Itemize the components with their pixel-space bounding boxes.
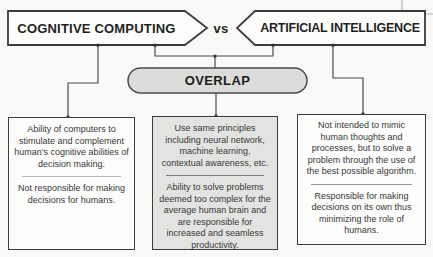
cognitive-computing-top-text: Ability of computers to stimulate and co… [14, 124, 129, 170]
connector-left [68, 45, 98, 117]
cognitive-computing-bottom-text: Not responsible for making decisions for… [14, 183, 129, 206]
overlap-bottom-text: Ability to solve problems deemed too com… [158, 182, 272, 251]
banner-right-title: ARTIFICIAL INTELLIGENCE [255, 11, 425, 45]
overlap-top-text: Use same principles including neural net… [158, 123, 272, 169]
divider-line [311, 184, 412, 185]
overlap-box: Use same principles including neural net… [152, 116, 278, 250]
banner-left-title: COGNITIVE COMPUTING [8, 11, 185, 45]
diagram-canvas: COGNITIVE COMPUTING vs ARTIFICIAL INTELL… [0, 0, 433, 257]
artificial-intelligence-bottom-text: Responsible for making decisions on its … [303, 191, 420, 237]
overlap-pill-label: OVERLAP [128, 68, 307, 93]
connector-right [333, 45, 363, 114]
artificial-intelligence-top-text: Not intended to mimic human thoughts and… [303, 120, 420, 178]
divider-line [22, 176, 121, 177]
vs-label: vs [205, 11, 237, 45]
cognitive-computing-box: Ability of computers to stimulate and co… [8, 117, 135, 250]
divider-line [166, 175, 264, 176]
artificial-intelligence-box: Not intended to mimic human thoughts and… [297, 114, 426, 245]
connector-center-bracket [155, 45, 273, 56]
